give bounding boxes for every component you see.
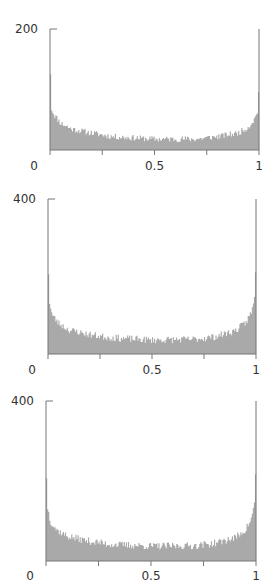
histogram-bar-path: [46, 474, 256, 561]
y-tick-label: 400: [13, 192, 36, 206]
histogram-bars: [46, 474, 256, 561]
x-tick-label: 1: [252, 569, 260, 582]
x-tick-label: 0: [28, 363, 36, 377]
histogram-panel-3: 40000.51: [11, 394, 260, 582]
x-tick-label: 0.5: [142, 363, 161, 377]
histogram-panel-1: 20000.51: [15, 22, 263, 173]
x-tick-label: 0.5: [145, 159, 164, 173]
histogram-bars: [48, 272, 256, 354]
y-tick-label: 200: [15, 22, 38, 36]
histogram-panel-2: 40000.51: [13, 192, 260, 377]
x-tick-label: 0: [26, 569, 34, 582]
x-tick-label: 0.5: [141, 569, 160, 582]
x-tick-label: 1: [252, 363, 260, 377]
y-tick-label: 400: [11, 394, 34, 408]
histogram-bar-path: [48, 272, 256, 354]
histogram-figure: 20000.51 40000.51 40000.51: [0, 0, 266, 582]
histogram-bar-path: [50, 74, 259, 150]
histogram-bars: [50, 74, 259, 150]
x-tick-label: 0: [30, 159, 38, 173]
x-tick-label: 1: [255, 159, 263, 173]
